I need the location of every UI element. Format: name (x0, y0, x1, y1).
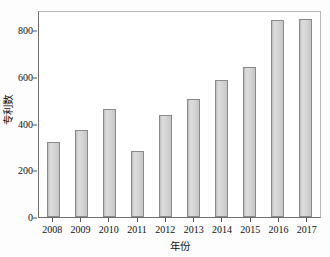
x-tick-label-2010: 2010 (95, 223, 123, 238)
x-tick-mark-2013 (193, 218, 194, 222)
x-tick-label-2014: 2014 (208, 223, 236, 238)
bar-2015 (243, 67, 256, 217)
bar-slot (95, 12, 123, 217)
bar-slot (123, 12, 151, 217)
x-tick-mark-2012 (165, 218, 166, 222)
y-tick-label-800: 800 (18, 26, 33, 36)
y-tick-label-400: 400 (18, 120, 33, 130)
x-tick-label-2015: 2015 (236, 223, 264, 238)
x-tick-mark-2009 (80, 218, 81, 222)
x-tick-label-2013: 2013 (179, 223, 207, 238)
x-tick-mark-2008 (52, 218, 53, 222)
y-tick-mark-600 (33, 77, 37, 78)
y-tick-label-600: 600 (18, 73, 33, 83)
bar-series (39, 12, 320, 217)
x-tick-label-2012: 2012 (151, 223, 179, 238)
bar-2012 (159, 115, 172, 217)
bar-2008 (47, 142, 60, 217)
bar-slot (179, 12, 207, 217)
x-axis-title: 年份 (38, 238, 321, 253)
bar-2010 (103, 109, 116, 217)
x-tick-mark-2010 (108, 218, 109, 222)
x-tick-mark-2014 (221, 218, 222, 222)
x-tick-label-2017: 2017 (293, 223, 321, 238)
bar-slot (236, 12, 264, 217)
bar-2013 (187, 99, 200, 217)
bar-2011 (131, 151, 144, 217)
x-tick-mark-2011 (137, 218, 138, 222)
bar-chart: 专利数 0 200 400 600 800 (0, 0, 330, 257)
x-tick-label-2008: 2008 (38, 223, 66, 238)
x-tick-label-2011: 2011 (123, 223, 151, 238)
y-tick-label-200: 200 (18, 166, 33, 176)
bar-slot (67, 12, 95, 217)
x-tick-mark-2017 (306, 218, 307, 222)
bar-slot (292, 12, 320, 217)
bar-slot (208, 12, 236, 217)
bar-slot (151, 12, 179, 217)
y-tick-mark-200 (33, 171, 37, 172)
bar-2017 (299, 19, 312, 217)
x-tick-label-2016: 2016 (264, 223, 292, 238)
y-tick-mark-0 (33, 218, 37, 219)
plot-area (38, 11, 321, 218)
y-tick-mark-800 (33, 31, 37, 32)
x-tick-mark-2015 (250, 218, 251, 222)
bar-slot (39, 12, 67, 217)
x-tick-label-2009: 2009 (66, 223, 94, 238)
x-axis-tick-labels: 2008 2009 2010 2011 2012 2013 2014 2015 … (38, 223, 321, 238)
y-tick-mark-400 (33, 124, 37, 125)
bar-2016 (271, 20, 284, 217)
x-tick-mark-2016 (278, 218, 279, 222)
bar-slot (264, 12, 292, 217)
bar-2014 (215, 80, 228, 217)
bar-2009 (75, 130, 88, 217)
